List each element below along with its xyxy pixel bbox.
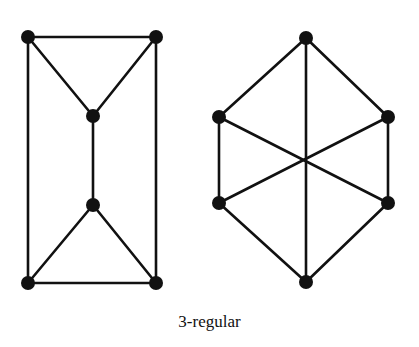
vertex-e	[21, 276, 35, 290]
edge-d-e	[28, 205, 93, 283]
vertex-bt	[299, 275, 313, 289]
edge-a-c	[28, 37, 93, 116]
vertex-b	[149, 30, 163, 44]
edge-ll-bt	[219, 203, 306, 282]
edge-lr-bt	[306, 203, 388, 282]
left-graph	[21, 30, 163, 290]
edge-t-ul	[219, 38, 306, 117]
right-graph	[212, 31, 395, 289]
vertex-ur	[381, 110, 395, 124]
vertex-d	[86, 198, 100, 212]
edge-b-c	[93, 37, 156, 116]
edge-t-ur	[306, 38, 388, 117]
graph-diagram	[0, 0, 419, 347]
vertex-ll	[212, 196, 226, 210]
caption-label: 3-regular	[0, 312, 419, 332]
vertex-f	[149, 276, 163, 290]
vertex-ul	[212, 110, 226, 124]
vertex-lr	[381, 196, 395, 210]
vertex-t	[299, 31, 313, 45]
edge-d-f	[93, 205, 156, 283]
vertex-c	[86, 109, 100, 123]
vertex-a	[21, 30, 35, 44]
